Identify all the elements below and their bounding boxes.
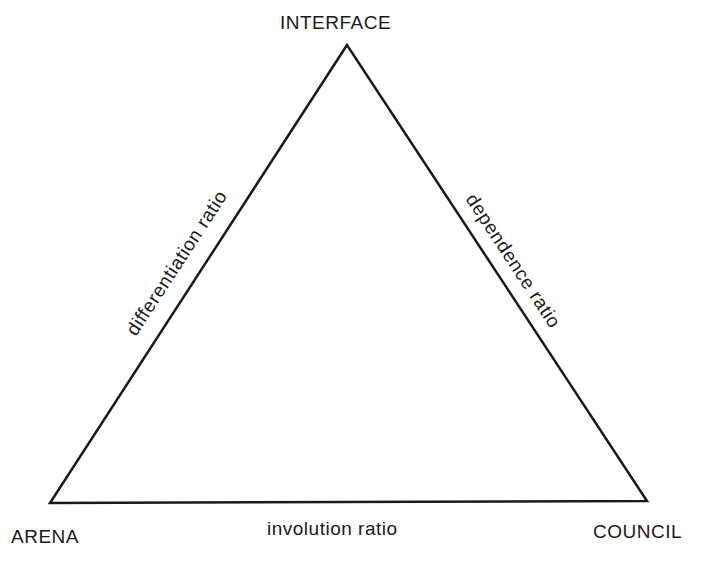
vertex-label-interface: INTERFACE <box>280 12 391 34</box>
edge-label-involution-ratio: involution ratio <box>267 518 398 540</box>
vertex-label-council: COUNCIL <box>593 521 682 543</box>
triangle-diagram <box>0 0 709 563</box>
vertex-label-arena: ARENA <box>11 526 79 548</box>
triangle-shape <box>50 45 647 503</box>
